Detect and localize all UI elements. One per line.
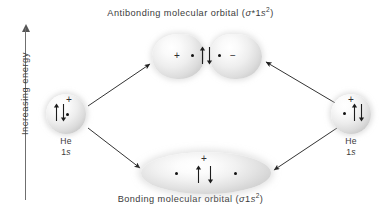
left-atomic-orbital-phase-sign: + [66,95,72,105]
right-atomic-orbital-element: He [331,136,371,147]
bonding-orbital-nucleus-dot-right [234,172,237,175]
left-atomic-orbital-spin-down-icon [60,103,67,122]
bonding-orbital-spin-down-icon [207,165,214,184]
antibonding-orbital-right-sign: − [230,51,236,61]
right-atomic-orbital-letter: s [351,147,356,157]
antibonding-orbital: + − [152,30,262,82]
left-atomic-orbital-label: He 1s [46,136,86,157]
right-atomic-orbital-label: He 1s [331,136,371,157]
arrow-left-to-antibonding [88,64,150,106]
mo-diagram-figure: Antibonding molecular orbital (σ*1s2) Bo… [0,0,381,211]
left-atomic-orbital-shell-label: 1s [46,147,86,158]
arrow-right-to-antibonding [266,62,337,104]
bonding-orbital-spin-up-icon [195,165,202,184]
left-atomic-orbital-element: He [46,136,86,147]
antibonding-orbital-spin-down-icon [206,46,213,65]
bonding-orbital-nucleus-dot-left [175,172,178,175]
arrow-left-to-bonding [88,128,140,168]
antibonding-orbital-left-sign: + [174,51,180,61]
bonding-orbital-phase-sign: + [201,154,207,164]
bonding-orbital-glyphs: + [141,152,271,194]
right-atomic-orbital-shell-label: 1s [331,147,371,158]
right-atomic-orbital-spin-down-icon [358,103,365,122]
left-atomic-orbital-letter: s [66,147,71,157]
arrow-right-to-bonding [274,128,337,170]
